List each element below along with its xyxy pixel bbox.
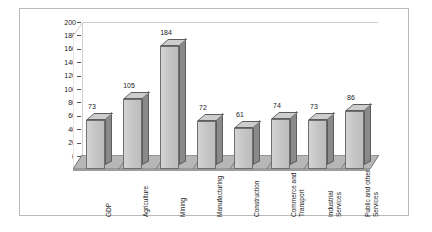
y-axis-tick-mark	[77, 156, 81, 157]
bar-front-face	[160, 46, 179, 169]
bar-value-label: 73	[298, 103, 330, 110]
x-axis-label-line: Services	[334, 191, 342, 217]
bar-side-face	[105, 112, 112, 165]
bar-value-label: 86	[335, 94, 367, 101]
x-axis-label-industrial-services: IndustrialServices	[308, 167, 345, 217]
y-axis-tick-mark	[77, 62, 81, 63]
x-axis-label-text: IndustrialServices	[327, 191, 342, 217]
x-axis-label-line: Agriculture	[142, 186, 150, 217]
bar-value-label: 184	[150, 29, 182, 36]
bar-value-label: 72	[187, 104, 219, 111]
x-axis-label-text: Agriculture	[142, 186, 150, 217]
bar-side-face	[216, 113, 223, 165]
bar-front-face	[234, 128, 253, 169]
bar-slot: 61	[230, 22, 267, 169]
x-axis-label-text: Construction	[253, 181, 261, 218]
x-axis-label-line: Manufacturing	[216, 176, 224, 217]
x-axis-label-line: Public and other	[364, 170, 372, 217]
bar-side-face	[364, 104, 371, 165]
y-axis-tick-mark	[77, 129, 81, 130]
x-axis-label-manufacturing: Manufacturing	[197, 167, 234, 217]
bar-value-label: 105	[113, 82, 145, 89]
bar-column[interactable]	[234, 128, 253, 169]
bar-side-face	[290, 112, 297, 165]
x-axis-label-gdp: GDP	[86, 167, 123, 217]
x-axis-label-commerce-and-transport: Commerce andTransport	[271, 167, 308, 217]
bar-column[interactable]	[197, 121, 216, 169]
x-axis-label-line: Industrial	[327, 191, 335, 217]
bar-column[interactable]	[271, 119, 290, 169]
y-axis-tick-mark	[77, 116, 81, 117]
bar-column[interactable]	[160, 46, 179, 169]
bar-front-face	[345, 111, 364, 169]
chart-frame-border: 200180160140120100806040200	[19, 8, 409, 216]
bar-series: 731051847261747386	[82, 22, 378, 169]
bar-slot: 72	[193, 22, 230, 169]
x-axis-label-text: Manufacturing	[216, 176, 224, 217]
y-axis-tick-mark	[77, 49, 81, 50]
y-axis-tick-mark	[77, 143, 81, 144]
y-axis-tick-mark	[77, 35, 81, 36]
bar-side-face	[327, 112, 334, 165]
x-axis-label-line: Services	[371, 170, 379, 217]
x-axis-label-text: GDP	[105, 203, 113, 217]
y-axis-tick-mark	[77, 76, 81, 77]
bar-column[interactable]	[345, 111, 364, 169]
bar-slot: 86	[341, 22, 378, 169]
x-axis-category-labels: GDPAgricultureMiningManufacturingConstru…	[82, 167, 388, 217]
bar-column[interactable]	[86, 120, 105, 169]
x-axis-label-text: Commerce andTransport	[290, 173, 305, 217]
y-axis-tick-mark	[77, 89, 81, 90]
bar-column[interactable]	[123, 99, 142, 169]
bar-side-face	[179, 38, 186, 165]
bar-slot: 184	[156, 22, 193, 169]
chart-page: 200180160140120100806040200	[0, 0, 432, 232]
y-axis-tick-mark	[77, 102, 81, 103]
x-axis-label-construction: Construction	[234, 167, 271, 217]
x-axis-label-agriculture: Agriculture	[123, 167, 160, 217]
plot-area: 200180160140120100806040200	[20, 9, 410, 217]
bar-front-face	[197, 121, 216, 169]
bar-column[interactable]	[308, 120, 327, 169]
bar-value-label: 73	[76, 103, 108, 110]
x-axis-label-line: GDP	[105, 203, 113, 217]
x-axis-label-line: Mining	[179, 198, 187, 217]
bar-front-face	[123, 99, 142, 169]
x-axis-label-line: Construction	[253, 181, 261, 218]
bar-value-label: 61	[224, 111, 256, 118]
bar-side-face	[142, 91, 149, 165]
bar-slot: 74	[267, 22, 304, 169]
x-axis-label-mining: Mining	[160, 167, 197, 217]
bar-slot: 73	[82, 22, 119, 169]
x-axis-label-line: Commerce and	[290, 173, 298, 217]
bar-slot: 105	[119, 22, 156, 169]
bar-value-label: 74	[261, 102, 293, 109]
bar-front-face	[86, 120, 105, 169]
x-axis-label-public-and-other-services: Public and otherServices	[345, 167, 382, 217]
bar-front-face	[308, 120, 327, 169]
bar-front-face	[271, 119, 290, 169]
y-axis-tick-mark	[77, 22, 81, 23]
x-axis-label-line: Transport	[297, 173, 305, 217]
x-axis-label-text: Mining	[179, 198, 187, 217]
x-axis-label-text: Public and otherServices	[364, 170, 379, 217]
